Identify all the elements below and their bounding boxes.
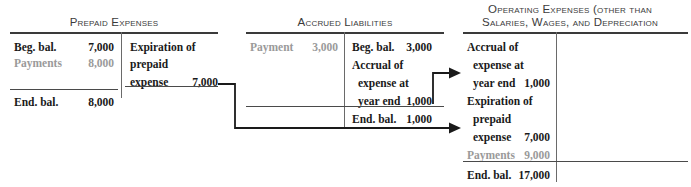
connector-accrued-to-operating-arrowhead	[449, 68, 461, 79]
connector-accrued-to-operating	[0, 0, 691, 187]
connector-accrued-to-operating-path	[433, 73, 449, 104]
t-account-diagram: Prepaid Expenses Beg. bal. 7,000 Payment…	[0, 0, 691, 187]
